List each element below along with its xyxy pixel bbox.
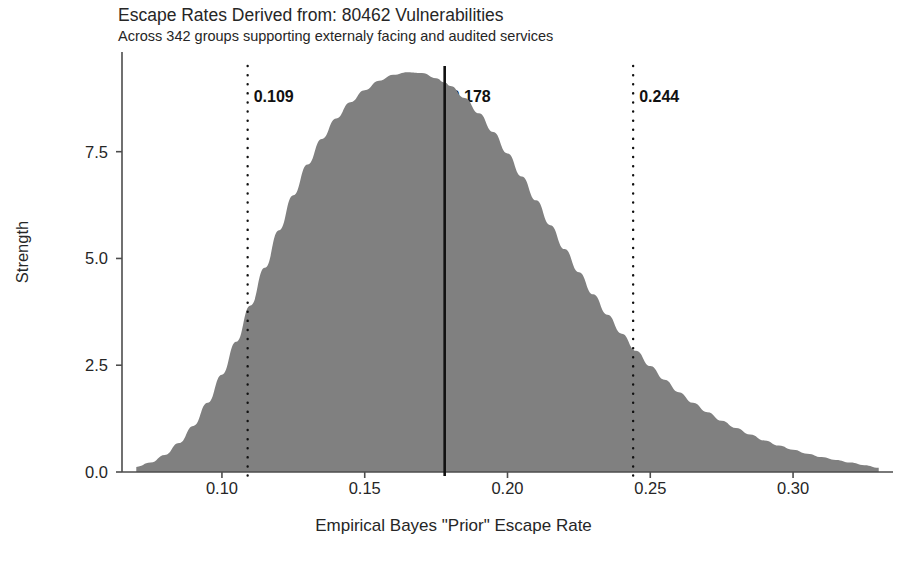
density-chart-figure: Escape Rates Derived from: 80462 Vulnera… bbox=[0, 0, 907, 566]
plot-area bbox=[0, 0, 907, 566]
